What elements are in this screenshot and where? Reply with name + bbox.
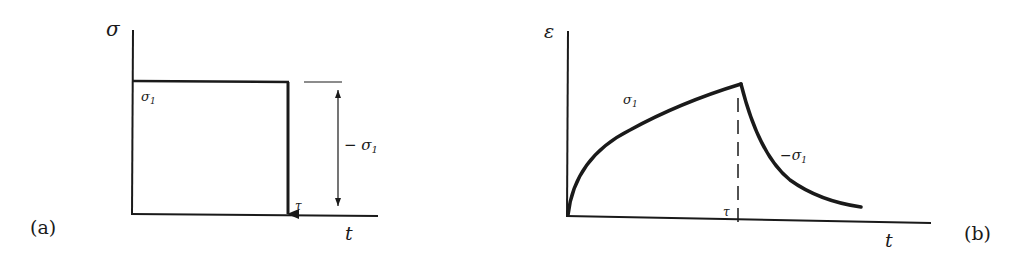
panel-b-x-axis: [566, 216, 931, 223]
panel-b-tau-label: τ: [723, 205, 730, 219]
panel-a-y-axis-label: σ: [106, 17, 121, 41]
panel-b-x-axis-label: t: [885, 229, 893, 251]
panel-a: σ σ1 − σ1 τ t (a): [30, 17, 378, 244]
panel-a-x-axis-label: t: [345, 222, 353, 244]
panel-a-stress-level-line: [133, 81, 289, 82]
panel-a-x-axis: [131, 214, 378, 216]
panel-b-recovery-curve: [741, 84, 861, 207]
panel-b-creep-curve: [568, 84, 741, 215]
panel-b-decay-label: −σ1: [780, 147, 807, 165]
panel-a-y-axis: [132, 30, 133, 214]
panel-b-rise-label: σ1: [623, 92, 638, 109]
diagram-canvas: σ σ1 − σ1 τ t (a) ε σ1 −σ1 τ t (b): [0, 0, 1010, 268]
panel-b-y-axis-label: ε: [544, 20, 554, 42]
panel-b-y-axis: [567, 31, 568, 216]
panel-a-label: (a): [30, 216, 56, 238]
panel-b: ε σ1 −σ1 τ t (b): [544, 20, 991, 251]
panel-a-dimension-label: − σ1: [344, 136, 378, 155]
panel-a-tau-label: τ: [295, 199, 302, 213]
panel-a-level-label: σ1: [141, 89, 156, 106]
panel-b-label: (b): [964, 222, 991, 244]
